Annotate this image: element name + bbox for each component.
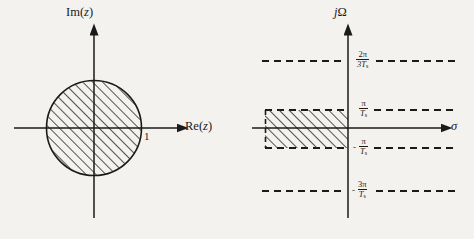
unit-circle-value-label: 1 [144, 131, 150, 142]
tick-numerator: π [360, 137, 366, 146]
tick-denominator: Ts [359, 108, 368, 118]
jomega-axis-label: jΩ [334, 6, 347, 19]
tick-label-neg-3pi-Ts: 3π Ts [357, 180, 368, 199]
tick-denominator: Ts [358, 189, 367, 199]
im-axis-label: Im(z) [66, 6, 93, 19]
tick-numerator: 2π [357, 50, 368, 59]
unit-circle-hatch-fill [40, 74, 150, 184]
tick-label-pi-Ts: π Ts [359, 99, 368, 118]
figure-canvas [0, 0, 474, 239]
tick-label-2pi-3Ts: 2π 3Ts [356, 50, 369, 69]
re-axis-label: Re(z) [185, 120, 212, 133]
sigma-axis-label: σ [451, 120, 457, 133]
tick-sign-neg-3pi-Ts: - [352, 186, 355, 195]
tick-numerator: π [360, 99, 366, 108]
tick-sign-neg-pi-Ts: - [353, 143, 356, 152]
tick-denominator: Ts [359, 146, 368, 156]
tick-label-neg-pi-Ts: π Ts [359, 137, 368, 156]
tick-numerator: 3π [357, 180, 368, 189]
left-plot-z-plane [14, 34, 178, 218]
tick-denominator: 3Ts [356, 59, 369, 69]
